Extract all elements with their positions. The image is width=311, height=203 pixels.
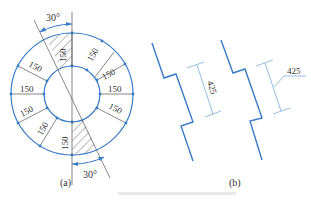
angle-label-bottom: 30°: [83, 169, 97, 180]
dim-label-left: 425: [205, 80, 219, 96]
dim-label: 150: [100, 66, 117, 81]
panel-a-label: (a): [60, 177, 71, 189]
figure: 30° 30° 150 150 150 150 150 150 150 150 …: [0, 0, 311, 203]
angle-label-top: 30°: [46, 12, 60, 23]
dim-label: 150: [20, 84, 34, 94]
dim-label: 150: [107, 101, 124, 116]
zigzag-right: [221, 40, 262, 160]
dim-label-right: 425: [287, 66, 301, 76]
dim-label: 150: [18, 103, 35, 118]
zigzag-left: [152, 43, 193, 161]
panel-a-ring-diagram: 30° 30° 150 150 150 150 150 150 150 150 …: [10, 12, 135, 189]
dim-label: 150: [60, 136, 70, 150]
panel-b-label: (b): [229, 177, 241, 189]
panel-b-zigzag-diagram: 425 425 (b): [152, 40, 306, 189]
dim-label: 150: [108, 84, 122, 94]
dim-label: 150: [58, 48, 68, 62]
dim-label: 150: [85, 46, 101, 63]
faded-caption: [118, 192, 236, 195]
dim-label: 150: [35, 120, 51, 137]
